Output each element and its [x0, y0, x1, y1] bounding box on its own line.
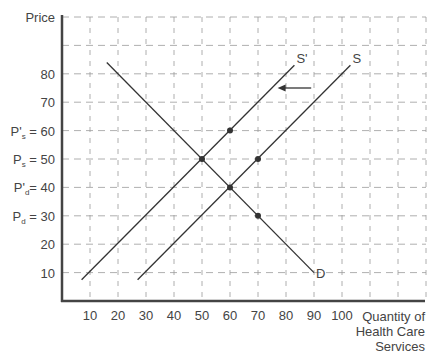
- curve-d: [107, 62, 314, 272]
- curve-label: S: [352, 51, 361, 66]
- curve-s-prime: [82, 65, 295, 279]
- x-tick-labels: 102030405060708090100: [83, 308, 353, 323]
- grid: [62, 17, 426, 301]
- data-point: [255, 213, 261, 219]
- x-tick-label: 20: [111, 308, 125, 323]
- data-point: [199, 156, 205, 162]
- y-tick-label: 10: [41, 266, 55, 281]
- y-tick-label: Pd = 30: [13, 209, 55, 226]
- x-tick-label: 50: [195, 308, 209, 323]
- arrow-left-icon: [278, 85, 286, 92]
- x-tick-label: 80: [279, 308, 293, 323]
- x-axis-title-line: Quantity of: [362, 309, 425, 324]
- curve-s: [138, 65, 351, 279]
- curves: DSS': [82, 51, 362, 280]
- y-tick-label: P's = 60: [11, 124, 55, 141]
- supply-demand-chart: DSS' 1020Pd = 30P'd= 40Ps = 50P's = 6070…: [0, 0, 440, 361]
- x-tick-label: 90: [307, 308, 321, 323]
- x-tick-label: 40: [167, 308, 181, 323]
- y-tick-labels: 1020Pd = 30P'd= 40Ps = 50P's = 607080: [11, 67, 55, 281]
- y-axis-title: Price: [25, 10, 55, 25]
- y-tick-label: 70: [41, 95, 55, 110]
- x-tick-label: 10: [83, 308, 97, 323]
- annotations: [278, 85, 312, 92]
- x-axis-title-line: Services: [375, 339, 425, 354]
- y-tick-label: 20: [41, 237, 55, 252]
- curve-label: S': [296, 51, 307, 66]
- curve-label: D: [316, 266, 325, 281]
- y-tick-label: 80: [41, 67, 55, 82]
- axes: [61, 15, 425, 302]
- x-tick-label: 30: [139, 308, 153, 323]
- data-point: [227, 128, 233, 134]
- x-tick-label: 60: [223, 308, 237, 323]
- data-point: [227, 184, 233, 190]
- data-point: [255, 156, 261, 162]
- x-tick-label: 70: [251, 308, 265, 323]
- y-tick-label: Ps = 50: [13, 152, 55, 169]
- x-axis-title-line: Health Care: [356, 324, 425, 339]
- x-axis-title: Quantity ofHealth CareServices: [356, 309, 426, 354]
- y-tick-label: P'd= 40: [14, 180, 55, 197]
- x-tick-label: 100: [331, 308, 353, 323]
